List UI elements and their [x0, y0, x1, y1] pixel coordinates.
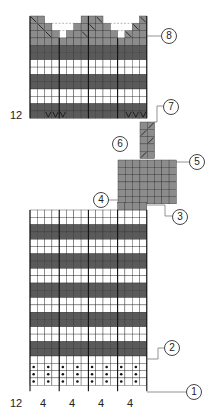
top-row-label: 12 — [10, 109, 22, 121]
callout-8: 8 — [161, 28, 177, 44]
col-group-label-1: 4 — [40, 397, 46, 409]
bottom-row-label: 12 — [10, 397, 22, 409]
col-group-label-3: 4 — [98, 397, 104, 409]
callout-3: 3 — [172, 209, 188, 225]
callout-2: 2 — [164, 340, 180, 356]
callout-7: 7 — [163, 99, 179, 115]
callout-6: 6 — [112, 136, 128, 152]
callout-5: 5 — [189, 154, 205, 170]
col-group-label-4: 4 — [127, 397, 133, 409]
chart-grid — [0, 0, 217, 417]
callout-1: 1 — [186, 384, 202, 400]
knitting-chart: 12 12 4 4 4 4 1 2 3 4 5 6 7 8 — [0, 0, 217, 417]
callout-4: 4 — [93, 192, 109, 208]
col-group-label-2: 4 — [69, 397, 75, 409]
